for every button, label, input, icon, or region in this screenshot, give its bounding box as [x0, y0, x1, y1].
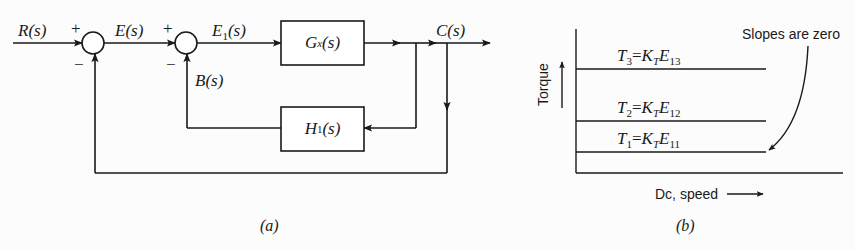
feedback-signal-label: B(s) — [195, 72, 223, 89]
summer2-plus-sign: + — [163, 20, 173, 37]
output-signal-label: C(s) — [436, 22, 465, 39]
caption-a: (a) — [260, 218, 279, 234]
t3-equation: T3=KTE13 — [617, 47, 680, 67]
gx-block: Gx(s) — [281, 21, 364, 65]
summer2-minus-sign: − — [166, 56, 176, 73]
caption-b: (b) — [676, 218, 695, 234]
slopes-annotation-arrow — [769, 46, 808, 150]
t1-equation: T1=KTE11 — [617, 130, 680, 150]
summing-junction-1 — [82, 32, 104, 54]
summer1-plus-sign: + — [71, 20, 81, 37]
error1-signal-label: E1(s) — [212, 22, 246, 42]
summing-junction-2 — [175, 32, 197, 54]
slopes-annotation: Slopes are zero — [742, 27, 840, 41]
t2-equation: T2=KTE12 — [617, 99, 680, 119]
summer1-minus-sign: − — [74, 56, 84, 73]
h1-block: H1(s) — [281, 107, 364, 151]
y-axis-label: Torque — [536, 63, 550, 106]
x-axis-label: Dc, speed — [655, 187, 718, 201]
error-signal-label: E(s) — [115, 22, 143, 39]
input-signal-label: R(s) — [18, 22, 46, 39]
